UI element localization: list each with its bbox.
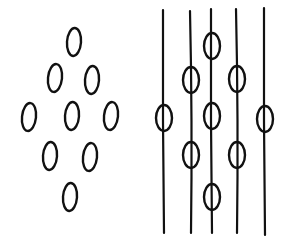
free-oval-group	[21, 28, 120, 212]
free-oval	[103, 101, 120, 130]
strand-line	[264, 8, 265, 235]
strand-line	[163, 10, 164, 233]
free-oval	[84, 66, 100, 95]
free-oval	[42, 142, 58, 171]
free-oval	[82, 142, 99, 171]
strand-line	[190, 11, 192, 233]
free-oval	[47, 63, 64, 92]
diagram-canvas	[0, 0, 283, 243]
free-oval	[21, 102, 38, 131]
free-oval	[62, 183, 78, 212]
free-oval	[66, 28, 82, 57]
strand-line	[211, 9, 212, 233]
threaded-strand-group	[156, 8, 273, 235]
free-oval	[64, 102, 80, 131]
strand-line	[236, 9, 238, 233]
